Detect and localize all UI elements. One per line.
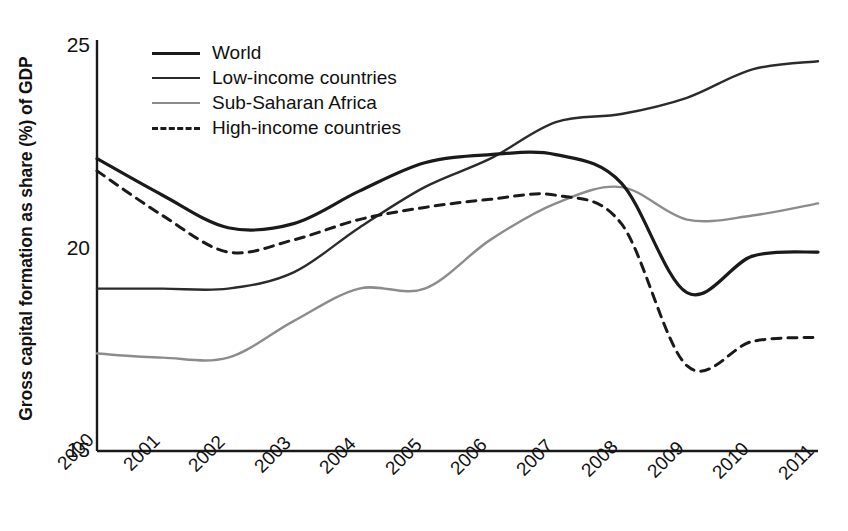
legend-item-world: World [152,40,401,65]
legend-label-sub-saharan-africa: Sub-Saharan Africa [212,92,377,114]
chart-legend: World Low-income countries Sub-Saharan A… [152,40,401,140]
y-axis-tick-label-20: 20 [44,236,90,260]
legend-item-high-income: High-income countries [152,115,401,140]
legend-label-high-income: High-income countries [212,117,401,139]
solid-dark-line-icon [152,71,200,85]
y-axis-tick-label-25: 25 [44,33,90,57]
legend-label-low-income: Low-income countries [212,67,397,89]
series-line-sub-saharan-africa [97,187,818,361]
chart-figure: Gross capital formation as share (%) of … [0,0,848,531]
legend-label-world: World [212,42,261,64]
y-axis-title: Gross capital formation as share (%) of … [16,24,37,454]
legend-item-low-income: Low-income countries [152,65,401,90]
solid-black-thick-line-icon [152,46,200,60]
legend-item-sub-saharan-africa: Sub-Saharan Africa [152,90,401,115]
dashed-black-line-icon [152,121,200,135]
series-line-high-income-countries [97,171,818,371]
solid-grey-line-icon [152,96,200,110]
